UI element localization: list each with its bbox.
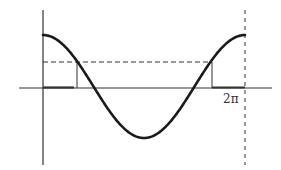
cosine-diagram: 2π (0, 0, 281, 170)
two-pi-label: 2π (223, 92, 239, 106)
